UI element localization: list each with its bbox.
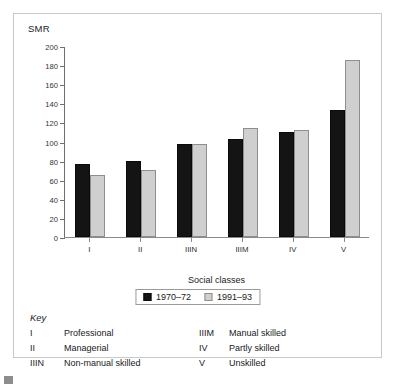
y-tick-label: 120	[45, 119, 58, 128]
y-tick-mark	[60, 238, 65, 239]
chart-legend: 1970–721991–93	[135, 289, 260, 305]
key-code: V	[199, 358, 229, 368]
y-tick-label: 180	[45, 62, 58, 71]
bar-group	[126, 47, 156, 237]
key-row: IVPartly skilled	[199, 343, 368, 358]
x-tick-mark	[89, 238, 90, 242]
caption-mark-icon	[4, 376, 13, 384]
x-axis-line	[64, 237, 369, 238]
y-tick-label: 20	[50, 214, 58, 223]
bar-group	[279, 47, 309, 237]
key-code: II	[30, 343, 64, 353]
x-tick-mark	[140, 238, 141, 242]
bar[interactable]	[279, 132, 294, 237]
x-tick-mark	[191, 238, 192, 242]
key-title: Key	[30, 312, 46, 323]
key-row: IProfessional	[30, 328, 199, 343]
y-tick-label: 80	[50, 157, 58, 166]
bar[interactable]	[192, 144, 207, 237]
x-tick-mark	[344, 238, 345, 242]
key-column-right: IIIMManual skilledIVPartly skilledVUnski…	[199, 328, 368, 373]
x-axis-title: Social classes	[64, 275, 369, 285]
x-tick-mark	[242, 238, 243, 242]
bar-group	[228, 47, 258, 237]
key-row: VUnskilled	[199, 358, 368, 373]
bar-group-container	[65, 47, 369, 237]
bar[interactable]	[141, 170, 156, 237]
bar[interactable]	[228, 139, 243, 237]
figure-frame: SMR 020406080100120140160180200 IIIIIINI…	[13, 13, 382, 358]
key-text: Manual skilled	[229, 328, 286, 338]
key-code: IIIN	[30, 358, 64, 368]
axes: 020406080100120140160180200 IIIIIINIIIMI…	[64, 47, 369, 238]
y-tick-label: 140	[45, 100, 58, 109]
bar[interactable]	[243, 128, 258, 237]
y-tick-label: 0	[54, 234, 58, 243]
legend-item[interactable]: 1970–72	[143, 292, 191, 302]
y-tick-label: 100	[45, 138, 58, 147]
x-tick-label: I	[88, 245, 90, 254]
grey-square-swatch	[204, 293, 212, 301]
key-column-left: IProfessionalIIManagerialIIINNon-manual …	[30, 328, 199, 373]
bar-group	[330, 47, 360, 237]
legend-item[interactable]: 1991–93	[204, 292, 252, 302]
bar[interactable]	[90, 175, 105, 237]
key-text: Unskilled	[229, 358, 266, 368]
bar-group	[75, 47, 105, 237]
key-code: IV	[199, 343, 229, 353]
key-text: Professional	[64, 328, 114, 338]
y-tick-label: 160	[45, 81, 58, 90]
bar[interactable]	[75, 164, 90, 237]
black-square-swatch	[143, 293, 151, 301]
x-tick-label: IV	[289, 245, 296, 254]
key-row: IIIMManual skilled	[199, 328, 368, 343]
bar-group	[177, 47, 207, 237]
bar[interactable]	[330, 110, 345, 237]
key-text: Non-manual skilled	[64, 358, 141, 368]
x-tick-label: V	[341, 245, 346, 254]
key-row: IIINNon-manual skilled	[30, 358, 199, 373]
plot-area: SMR 020406080100120140160180200 IIIIIINI…	[14, 14, 381, 357]
legend-label: 1991–93	[217, 292, 252, 302]
figure-caption-sliver	[4, 376, 13, 384]
key-columns: IProfessionalIIManagerialIIINNon-manual …	[30, 328, 368, 373]
x-tick-label: IIIN	[185, 245, 197, 254]
x-tick-label: IIIM	[235, 245, 248, 254]
x-tick-mark	[293, 238, 294, 242]
key-code: I	[30, 328, 64, 338]
key-code: IIIM	[199, 328, 229, 338]
legend-label: 1970–72	[156, 292, 191, 302]
y-tick-label: 200	[45, 43, 58, 52]
bar[interactable]	[345, 60, 360, 237]
key-text: Managerial	[64, 343, 109, 353]
y-tick-label: 60	[50, 176, 58, 185]
key-text: Partly skilled	[229, 343, 280, 353]
key-row: IIManagerial	[30, 343, 199, 358]
y-axis-title: SMR	[28, 23, 50, 34]
y-tick-label: 40	[50, 195, 58, 204]
bar[interactable]	[126, 161, 141, 237]
x-tick-label: II	[138, 245, 142, 254]
bar[interactable]	[177, 144, 192, 237]
bar[interactable]	[294, 130, 309, 237]
